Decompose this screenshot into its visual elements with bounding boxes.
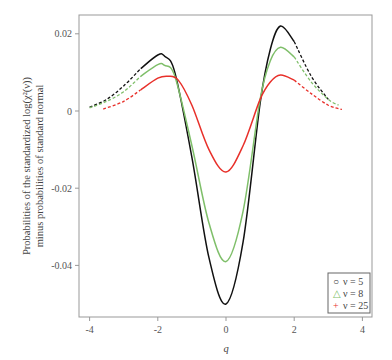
y-axis-title-line2: minus probabilities of standard normal <box>34 85 45 248</box>
x-tick-label: 0 <box>224 324 229 335</box>
line-chart: -4-2024 0.020-0.02-0.04 q Probabilities … <box>0 0 392 360</box>
x-axis-ticks: -4-2024 <box>85 317 364 335</box>
legend-marker-icon: △ <box>333 288 341 299</box>
series-line-3-right-tail <box>294 80 342 109</box>
legend-marker-icon: + <box>333 300 339 311</box>
legend-label: ν = 8 <box>343 288 363 299</box>
series-line-2 <box>141 47 294 261</box>
y-axis-ticks: 0.020-0.02-0.04 <box>51 28 79 271</box>
y-tick-label: 0 <box>67 106 72 117</box>
series-line-2-right-tail <box>294 57 338 105</box>
y-tick-label: -0.02 <box>51 183 72 194</box>
series-line-3 <box>141 75 294 172</box>
x-tick-label: 2 <box>292 324 297 335</box>
x-axis-title: q <box>223 343 228 354</box>
series-line-2-left-tail <box>90 76 141 108</box>
plot-frame <box>79 15 372 317</box>
series-line-1-right-tail <box>294 42 328 100</box>
legend-label: ν = 5 <box>343 276 363 287</box>
x-tick-label: -4 <box>85 324 93 335</box>
legend: ○ν = 5△ν = 8+ν = 25 <box>328 273 370 313</box>
legend-marker-icon: ○ <box>333 276 339 287</box>
y-axis-title-line1: Probabilities of the standardized log(χ²… <box>21 76 33 255</box>
x-tick-label: -2 <box>154 324 162 335</box>
series-line-1-left-tail <box>90 69 141 108</box>
legend-label: ν = 25 <box>343 300 368 311</box>
x-tick-label: 4 <box>360 324 365 335</box>
y-tick-label: -0.04 <box>51 260 72 271</box>
series-lines <box>90 26 342 304</box>
y-tick-label: 0.02 <box>55 28 73 39</box>
